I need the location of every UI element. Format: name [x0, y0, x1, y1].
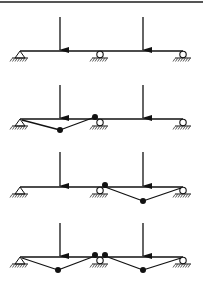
- ground-hatch: [186, 265, 188, 268]
- ground-hatch: [25, 195, 27, 198]
- ground-hatch: [181, 127, 183, 130]
- ground-hatch: [90, 195, 92, 198]
- ground-hatch: [10, 59, 12, 62]
- ground-hatch: [95, 127, 97, 130]
- ground-hatch: [90, 265, 92, 268]
- roller-support-icon: [173, 119, 191, 129]
- plastic-hinge-dot: [140, 267, 146, 273]
- ground-hatch: [23, 127, 25, 130]
- ground-hatch: [95, 265, 97, 268]
- ground-hatch: [176, 195, 178, 198]
- roller-support-icon: [173, 257, 191, 267]
- plastic-hinge-dot: [102, 182, 108, 188]
- ground-hatch: [93, 265, 95, 268]
- ground-hatch: [98, 265, 100, 268]
- ground-hatch: [15, 195, 17, 198]
- ground-hatch: [178, 265, 180, 268]
- ground-hatch: [105, 265, 107, 268]
- ground-hatch: [181, 265, 183, 268]
- ground-hatch: [183, 59, 185, 62]
- ground-hatch: [18, 265, 20, 268]
- ground-hatch: [100, 127, 102, 130]
- ground-hatch: [18, 127, 20, 130]
- ground-hatch: [95, 59, 97, 62]
- row-mechanism-span-2: [10, 152, 191, 204]
- plastic-hinge-dot: [92, 252, 98, 258]
- ground-hatch: [93, 195, 95, 198]
- ground-hatch: [173, 59, 175, 62]
- ground-hatch: [181, 59, 183, 62]
- ground-hatch: [188, 265, 190, 268]
- ground-hatch: [186, 59, 188, 62]
- roller-circle: [97, 119, 103, 125]
- ground-hatch: [176, 265, 178, 268]
- mechanism-line: [58, 256, 95, 270]
- mechanism-line: [105, 187, 143, 201]
- ground-hatch: [20, 195, 22, 198]
- ground-hatch: [188, 195, 190, 198]
- ground-hatch: [186, 195, 188, 198]
- roller-support-icon: [90, 51, 108, 61]
- roller-support-icon: [90, 187, 108, 197]
- ground-hatch: [93, 59, 95, 62]
- ground-hatch: [183, 127, 185, 130]
- beam-collapse-diagram: [0, 0, 203, 286]
- roller-circle: [180, 51, 186, 57]
- roller-support-icon: [90, 119, 108, 129]
- ground-hatch: [178, 59, 180, 62]
- ground-hatch: [173, 195, 175, 198]
- ground-hatch: [15, 127, 17, 130]
- roller-support-icon: [90, 257, 108, 267]
- roller-circle: [97, 51, 103, 57]
- ground-hatch: [90, 59, 92, 62]
- ground-hatch: [15, 59, 17, 62]
- ground-hatch: [103, 127, 105, 130]
- mechanism-line: [22, 120, 60, 130]
- pin-support-icon: [10, 187, 28, 198]
- ground-hatch: [181, 195, 183, 198]
- ground-hatch: [23, 59, 25, 62]
- ground-hatch: [15, 265, 17, 268]
- ground-hatch: [20, 265, 22, 268]
- row-loaded-beam: [10, 17, 191, 62]
- ground-hatch: [18, 59, 20, 62]
- ground-hatch: [100, 265, 102, 268]
- ground-hatch: [103, 265, 105, 268]
- ground-hatch: [176, 127, 178, 130]
- pin-support-icon: [10, 51, 28, 62]
- ground-hatch: [20, 59, 22, 62]
- ground-hatch: [100, 195, 102, 198]
- ground-hatch: [95, 195, 97, 198]
- ground-hatch: [23, 195, 25, 198]
- ground-hatch: [10, 127, 12, 130]
- row-combined-mechanism: [10, 223, 191, 273]
- ground-hatch: [105, 127, 107, 130]
- plastic-hinge-dot: [55, 267, 61, 273]
- row-mechanism-span-1: [10, 85, 191, 133]
- ground-hatch: [10, 265, 12, 268]
- ground-hatch: [25, 59, 27, 62]
- ground-hatch: [103, 195, 105, 198]
- ground-hatch: [178, 195, 180, 198]
- ground-hatch: [105, 195, 107, 198]
- ground-hatch: [25, 265, 27, 268]
- ground-hatch: [100, 59, 102, 62]
- ground-hatch: [98, 127, 100, 130]
- roller-circle: [180, 119, 186, 125]
- ground-hatch: [90, 127, 92, 130]
- ground-hatch: [178, 127, 180, 130]
- roller-support-icon: [173, 51, 191, 61]
- ground-hatch: [23, 265, 25, 268]
- plastic-hinge-dot: [92, 114, 98, 120]
- diagram-rows: [10, 17, 191, 273]
- ground-hatch: [13, 195, 15, 198]
- ground-hatch: [188, 127, 190, 130]
- roller-support-icon: [173, 187, 191, 197]
- ground-hatch: [186, 127, 188, 130]
- ground-hatch: [13, 127, 15, 130]
- ground-hatch: [103, 59, 105, 62]
- plastic-hinge-dot: [57, 127, 63, 133]
- ground-hatch: [183, 195, 185, 198]
- roller-circle: [97, 257, 103, 263]
- mechanism-line: [105, 256, 143, 270]
